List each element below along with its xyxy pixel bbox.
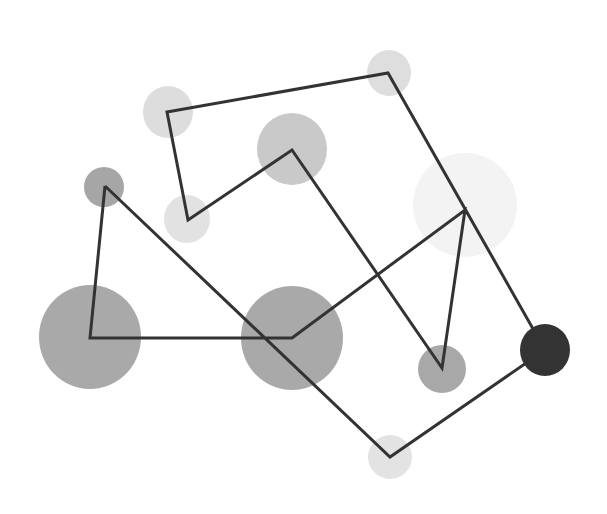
network-diagram — [0, 0, 607, 514]
node-layer-back — [39, 50, 517, 479]
node-layer-front — [520, 324, 570, 376]
node-circle-n10 — [520, 324, 570, 376]
node-circle-n4 — [413, 153, 517, 257]
